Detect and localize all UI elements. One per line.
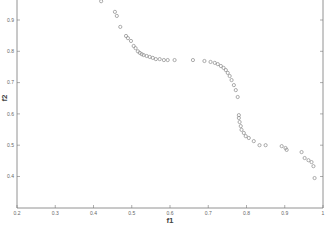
data-point (264, 144, 267, 147)
x-tick-label: 0.3 (52, 210, 59, 216)
data-point (236, 95, 239, 98)
data-point (239, 125, 242, 128)
scatter-plot: 0.20.30.40.50.60.70.80.910.40.50.60.70.8… (0, 0, 328, 229)
data-point (238, 120, 241, 123)
data-point (119, 25, 122, 28)
data-point (154, 58, 157, 61)
data-point (242, 131, 245, 134)
data-point (203, 59, 206, 62)
y-tick-label: 0.8 (7, 48, 14, 54)
x-tick-label: 0.4 (90, 210, 97, 216)
data-point (158, 58, 161, 61)
x-tick-label: 1 (322, 210, 325, 216)
data-point (173, 58, 176, 61)
data-point (280, 145, 283, 148)
axes: 0.20.30.40.50.60.70.80.910.40.50.60.70.8… (7, 0, 325, 216)
y-tick-label: 0.9 (7, 17, 14, 23)
data-point (216, 63, 219, 66)
data-point (113, 10, 116, 13)
data-point (240, 128, 243, 131)
data-point (232, 84, 235, 87)
data-point (307, 159, 310, 162)
data-point (234, 89, 237, 92)
data-point (312, 165, 315, 168)
data-point (228, 74, 231, 77)
data-point (209, 60, 212, 63)
x-tick-label: 0.5 (128, 210, 135, 216)
data-point (162, 58, 165, 61)
data-point (126, 37, 129, 40)
data-point (300, 150, 303, 153)
data-point (226, 71, 229, 74)
data-points (100, 0, 317, 180)
data-point (244, 135, 247, 138)
data-point (115, 14, 118, 17)
data-point (247, 136, 250, 139)
y-tick-label: 0.5 (7, 142, 14, 148)
x-tick-label: 0.2 (14, 210, 21, 216)
x-tick-label: 0.7 (205, 210, 212, 216)
x-tick-label: 0.9 (281, 210, 288, 216)
y-tick-label: 0.4 (7, 173, 14, 179)
data-point (230, 78, 233, 81)
data-point (303, 156, 306, 159)
data-point (252, 140, 255, 143)
data-point (313, 176, 316, 179)
x-tick-label: 0.8 (243, 210, 250, 216)
data-point (258, 144, 261, 147)
data-point (166, 58, 169, 61)
data-point (191, 58, 194, 61)
data-point (100, 0, 103, 3)
y-axis-label: f2 (0, 94, 9, 102)
y-tick-label: 0.6 (7, 111, 14, 117)
y-tick-label: 0.7 (7, 79, 14, 85)
data-point (129, 39, 132, 42)
data-point (310, 161, 313, 164)
x-axis-label: f1 (166, 216, 174, 225)
data-point (134, 47, 137, 50)
